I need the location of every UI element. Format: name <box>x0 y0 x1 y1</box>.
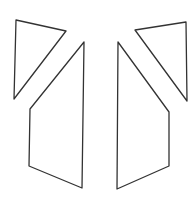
diagram-canvas <box>0 0 195 204</box>
tangram-pieces-figure <box>0 0 195 204</box>
